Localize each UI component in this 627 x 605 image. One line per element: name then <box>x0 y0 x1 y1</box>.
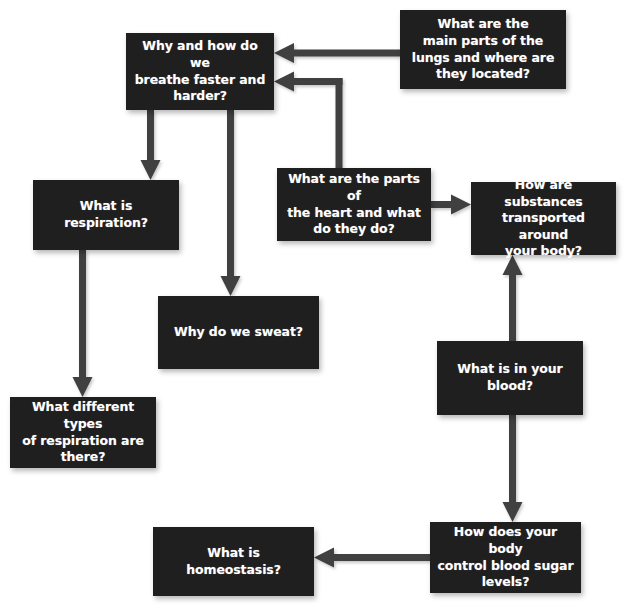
edge-bloodsugar-to-homeostasis <box>314 548 430 568</box>
node-heart-label: What are the parts of the heart and what… <box>284 171 424 238</box>
edge-heart-to-substances <box>431 195 471 215</box>
node-breathe-label: Why and how do we breathe faster and har… <box>133 38 267 105</box>
edge-lungs-to-breathe <box>274 43 400 63</box>
flowchart-canvas: What are the main parts of the lungs and… <box>0 0 627 605</box>
edge-blood-to-substances <box>503 255 523 341</box>
edge-breathe-to-sweat <box>221 110 241 296</box>
node-bloodsugar-label: How does your body control blood sugar l… <box>437 524 574 591</box>
node-substances[interactable]: How are substances transported around yo… <box>471 182 616 255</box>
diagram-title <box>0 0 627 6</box>
node-bloodsugar[interactable]: How does your body control blood sugar l… <box>430 522 581 593</box>
node-blood-label: What is in your blood? <box>444 361 576 394</box>
edge-breathe-to-respiration <box>141 110 161 180</box>
node-lungs-label: What are the main parts of the lungs and… <box>407 16 559 83</box>
node-types[interactable]: What different types of respiration are … <box>10 397 156 468</box>
node-homeostasis-label: What is homeostasis? <box>160 545 307 578</box>
node-breathe[interactable]: Why and how do we breathe faster and har… <box>126 33 274 110</box>
edge-blood-to-bloodsugar <box>503 415 523 522</box>
node-sweat-label: Why do we sweat? <box>165 324 312 341</box>
node-homeostasis[interactable]: What is homeostasis? <box>153 527 314 596</box>
node-heart[interactable]: What are the parts of the heart and what… <box>277 168 431 241</box>
node-substances-label: How are substances transported around yo… <box>478 177 609 260</box>
node-sweat[interactable]: Why do we sweat? <box>158 296 319 369</box>
node-types-label: What different types of respiration are … <box>17 399 149 466</box>
node-blood[interactable]: What is in your blood? <box>437 341 583 415</box>
edge-respiration-to-types <box>73 250 93 397</box>
node-respiration[interactable]: What is respiration? <box>33 180 179 250</box>
node-respiration-label: What is respiration? <box>40 198 172 231</box>
edge-heart-to-breathe <box>274 72 343 171</box>
node-lungs[interactable]: What are the main parts of the lungs and… <box>400 10 566 89</box>
